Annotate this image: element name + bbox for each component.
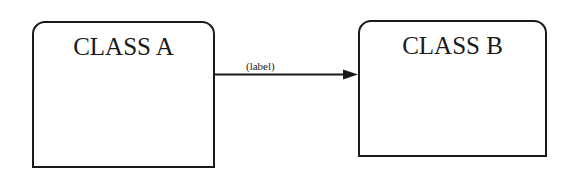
arrowhead-icon (343, 70, 358, 80)
association-label: (label) (246, 60, 275, 72)
association-arrow (0, 0, 573, 175)
